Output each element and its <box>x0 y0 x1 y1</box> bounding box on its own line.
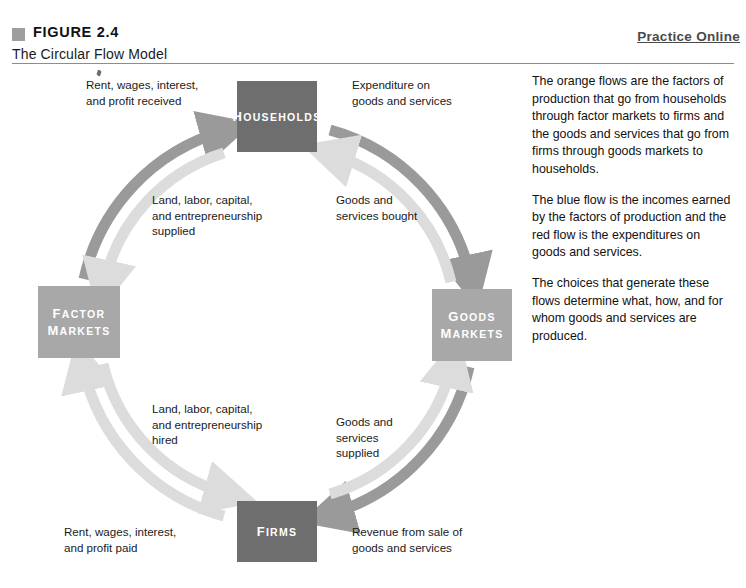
figure-marker-square <box>12 28 25 41</box>
commentary-paragraph-3: The choices that generate these flows de… <box>532 275 737 345</box>
flow-label-rent-wages-received: Rent, wages, interest, and profit receiv… <box>86 77 246 108</box>
sector-label-goods-markets-line2: MARKETS <box>440 325 503 342</box>
sector-label-firms: FIRMS <box>257 523 298 540</box>
flow-label-goods-services-supplied: Goods and services supplied <box>336 414 466 461</box>
practice-online-link[interactable]: Practice Online <box>637 29 740 44</box>
sector-label-goods-markets-line1: GOODS <box>448 308 496 325</box>
sector-box-factor-markets[interactable]: FACTOR MARKETS <box>38 286 120 358</box>
sector-label-households: HOUSEHOLDS <box>233 108 322 125</box>
sector-label-factor-markets-line1: FACTOR <box>53 305 106 322</box>
sector-box-firms[interactable]: FIRMS <box>237 501 317 562</box>
commentary-paragraph-1: The orange flows are the factors of prod… <box>532 73 737 179</box>
sector-label-factor-markets-line2: MARKETS <box>47 322 110 339</box>
flow-label-land-labor-supplied: Land, labor, capital, and entrepreneursh… <box>152 192 312 239</box>
sector-box-households[interactable]: HOUSEHOLDS <box>237 81 317 152</box>
figure-header: FIGURE 2.4 The Circular Flow Model Pract… <box>0 0 746 62</box>
flow-label-revenue-from-sale: Revenue from sale of goods and services <box>352 524 522 555</box>
commentary-paragraph-2: The blue flow is the incomes earned by t… <box>532 192 737 262</box>
flow-label-expenditure-on-goods: Expenditure on goods and services <box>352 77 512 108</box>
figure-number: FIGURE 2.4 <box>33 24 119 40</box>
flow-label-goods-services-bought: Goods and services bought <box>336 192 486 223</box>
commentary-column: The orange flows are the factors of prod… <box>532 73 737 359</box>
flow-label-rent-wages-paid: Rent, wages, interest, and profit paid <box>64 524 229 555</box>
figure-title: The Circular Flow Model <box>12 46 167 62</box>
circular-flow-diagram: HOUSEHOLDS FIRMS FACTOR MARKETS GOODS MA… <box>0 64 520 588</box>
flow-label-land-labor-hired: Land, labor, capital, and entrepreneursh… <box>152 401 312 448</box>
sector-box-goods-markets[interactable]: GOODS MARKETS <box>432 289 512 361</box>
